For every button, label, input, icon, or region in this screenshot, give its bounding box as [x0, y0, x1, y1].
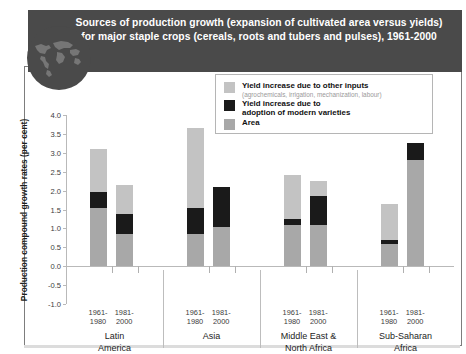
axis-tick [306, 266, 307, 273]
plot-area: Production compound growth rates (per ce… [66, 115, 454, 304]
y-tick-mark [63, 153, 66, 154]
y-tick-label: 4.0 [50, 111, 61, 120]
y-tick-mark [63, 172, 66, 173]
period-label-line: 2000 [407, 317, 423, 326]
y-tick-mark [63, 228, 66, 229]
bar-segment [116, 234, 133, 266]
y-tick-label: 1.5 [50, 205, 61, 214]
axis-tick [429, 266, 430, 273]
bar-segment [310, 181, 327, 196]
legend-swatch-area [224, 119, 235, 130]
y-tick-mark [63, 304, 66, 305]
legend-label-other-inputs: Yield increase due to other inputs [242, 81, 368, 91]
period-label-line: 1981- [406, 308, 425, 317]
bar-segment [116, 214, 133, 234]
bar-segment [116, 185, 133, 214]
bar-segment [407, 143, 424, 160]
period-label-line: 2000 [116, 317, 132, 326]
bar-segment [310, 225, 327, 267]
bar-segment [90, 149, 107, 192]
category-label: LatinAmerica [60, 331, 170, 354]
y-tick-label: 0.0 [50, 262, 61, 271]
y-tick-label: 2.5 [50, 167, 61, 176]
bar-middle-east-north-africa-1981-2000 [310, 115, 327, 304]
legend-swatch-modern-varieties [224, 100, 235, 111]
category-label: Middle East &North Africa [254, 331, 364, 354]
y-axis-spine [66, 115, 67, 304]
y-tick-mark [63, 134, 66, 135]
y-tick-mark [63, 191, 66, 192]
y-tick-label: 3.0 [50, 148, 61, 157]
bar-segment [90, 192, 107, 208]
bar-segment [90, 208, 107, 267]
period-label-line: 1981- [309, 308, 328, 317]
y-tick-label: 2.0 [50, 186, 61, 195]
bar-segment [310, 196, 327, 224]
y-tick-label: 0.5 [50, 243, 61, 252]
bar-segment [381, 240, 398, 243]
y-tick-label: 3.5 [50, 129, 61, 138]
legend-sublabel-other-inputs: (agrochemicals, irrigation, mechanizatio… [242, 91, 382, 98]
bar-sub-saharan-africa-1961-1980 [381, 115, 398, 304]
bar-segment [284, 225, 301, 267]
axis-tick [235, 266, 236, 273]
category-label: Asia [157, 331, 267, 343]
axis-tick [112, 266, 113, 273]
y-tick-label: 1.0 [50, 224, 61, 233]
bar-segment [187, 208, 204, 234]
bar-sub-saharan-africa-1981-2000 [407, 115, 424, 304]
axis-tick [403, 266, 404, 273]
period-label: 1981-2000 [104, 308, 144, 326]
period-label-line: 1981- [212, 308, 231, 317]
bar-segment [284, 219, 301, 225]
chart-title: Sources of production growth (expansion … [68, 16, 450, 45]
period-label-line: 1981- [115, 308, 134, 317]
category-label: Sub-SaharanAfrica [351, 331, 461, 354]
y-tick-mark [63, 266, 66, 267]
chart-figure: Sources of production growth (expansion … [0, 0, 466, 354]
bar-segment [187, 234, 204, 266]
axis-tick [332, 266, 333, 273]
header-banner: Sources of production growth (expansion … [28, 10, 462, 72]
bar-asia-1961-1980 [187, 115, 204, 304]
legend-swatch-other-inputs [224, 82, 235, 93]
bar-segment [187, 128, 204, 207]
period-label-line: 2000 [310, 317, 326, 326]
bar-segment [213, 187, 230, 227]
period-label: 1981-2000 [201, 308, 241, 326]
bar-asia-1981-2000 [213, 115, 230, 304]
period-label: 1981-2000 [298, 308, 338, 326]
y-tick-label: -1.0 [48, 300, 61, 309]
y-tick-mark [63, 285, 66, 286]
bar-segment [213, 227, 230, 267]
axis-tick [138, 266, 139, 273]
globe-icon [27, 26, 91, 90]
period-label: 1981-2000 [395, 308, 435, 326]
bar-segment [381, 244, 398, 267]
bar-latin-america-1981-2000 [116, 115, 133, 304]
bar-latin-america-1961-1980 [90, 115, 107, 304]
axis-tick [209, 266, 210, 273]
y-tick-label: -0.5 [48, 281, 61, 290]
bar-middle-east-north-africa-1961-1980 [284, 115, 301, 304]
legend-label-modern-varieties-line2: adoption of modern varieties [242, 108, 350, 118]
legend-label-area: Area [242, 118, 260, 128]
y-axis-label: Production compound growth rates (per ce… [19, 118, 29, 300]
bar-segment [381, 204, 398, 241]
y-tick-mark [63, 115, 66, 116]
bar-segment [407, 160, 424, 266]
y-tick-mark [63, 210, 66, 211]
bar-segment [284, 175, 301, 219]
period-label-line: 2000 [213, 317, 229, 326]
y-tick-mark [63, 247, 66, 248]
legend: Yield increase due to other inputs (agro… [215, 74, 433, 134]
